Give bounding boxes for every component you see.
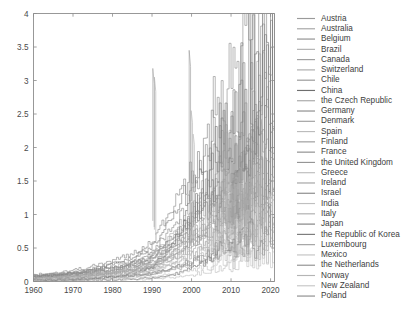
legend-label[interactable]: Brazil <box>321 45 342 54</box>
x-tick-label: 1970 <box>64 286 83 295</box>
y-tick-label: 3.5 <box>17 43 29 52</box>
y-tick-label: 2.5 <box>17 110 29 119</box>
legend-label[interactable]: the Netherlands <box>321 260 379 269</box>
y-tick-label: 3 <box>24 77 29 86</box>
legend-label[interactable]: Austria <box>321 14 347 23</box>
legend-label[interactable]: Poland <box>321 291 347 300</box>
x-tick-label: 2000 <box>182 286 201 295</box>
y-tick-label: 0 <box>24 278 29 287</box>
chart-page: 1960197019801990200020102020 00.511.522.… <box>0 0 407 321</box>
legend-label[interactable]: Finland <box>321 137 348 146</box>
legend-label[interactable]: Japan <box>321 219 344 228</box>
x-tick-label: 1960 <box>24 286 43 295</box>
legend-label[interactable]: Switzerland <box>321 65 364 74</box>
legend-label[interactable]: Canada <box>321 55 350 64</box>
legend-label[interactable]: Ireland <box>321 178 346 187</box>
y-tick-label: 4 <box>24 10 29 19</box>
y-tick-label: 2 <box>24 144 29 153</box>
legend-label[interactable]: Italy <box>321 209 337 218</box>
legend-label[interactable]: Germany <box>321 106 356 115</box>
legend-label[interactable]: France <box>321 147 347 156</box>
legend-label[interactable]: Australia <box>321 24 353 33</box>
legend-label[interactable]: Spain <box>321 127 342 136</box>
y-tick-label: 1 <box>24 211 29 220</box>
y-tick-label: 0.5 <box>17 244 29 253</box>
x-tick-label: 1990 <box>143 286 162 295</box>
x-tick-label: 1980 <box>103 286 122 295</box>
legend-label[interactable]: Norway <box>321 271 350 280</box>
legend-label[interactable]: China <box>321 86 343 95</box>
legend-label[interactable]: Israel <box>321 188 341 197</box>
legend-label[interactable]: Greece <box>321 168 348 177</box>
legend-label[interactable]: Luxembourg <box>321 240 367 249</box>
legend-label[interactable]: India <box>321 199 339 208</box>
legend-label[interactable]: the United Kingdom <box>321 158 393 167</box>
legend-label[interactable]: Chile <box>321 75 340 84</box>
x-tick-label: 2020 <box>261 286 280 295</box>
legend-label[interactable]: Belgium <box>321 34 351 43</box>
x-tick-label: 2010 <box>222 286 241 295</box>
legend-label[interactable]: the Republic of Korea <box>321 230 400 239</box>
y-tick-label: 1.5 <box>17 177 29 186</box>
legend-label[interactable]: Denmark <box>321 116 355 125</box>
multi-series-line-chart: 1960197019801990200020102020 00.511.522.… <box>0 0 407 321</box>
legend-label[interactable]: New Zealand <box>321 281 370 290</box>
legend-label[interactable]: the Czech Republic <box>321 96 392 105</box>
legend-label[interactable]: Mexico <box>321 250 347 259</box>
